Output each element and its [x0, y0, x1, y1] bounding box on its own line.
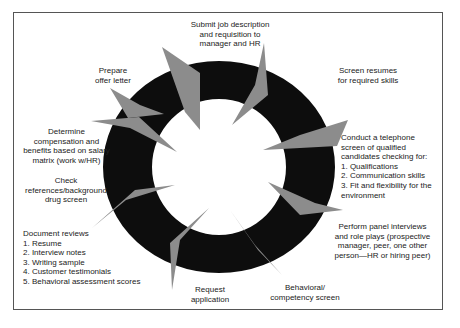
step-line: person—HR or hiring peer) [325, 251, 440, 261]
step-line: Check [16, 176, 116, 186]
step-line: references/background [16, 186, 116, 196]
review-item: 5. Behavioral assessment scores [23, 277, 158, 287]
step-screen-resumes: Screen resumes for required skills [318, 66, 418, 85]
step-determine-compensation: Determine compensation and benefits base… [14, 127, 119, 165]
review-item: 4. Customer testimonials [23, 267, 158, 277]
step-line: candidates checking for: [341, 152, 446, 162]
step-line: Screen resumes [318, 66, 418, 76]
step-line: benefits based on salary [14, 146, 119, 156]
step-check-references: Check references/background drug screen [16, 176, 116, 205]
review-item: 1. Resume [23, 239, 158, 249]
step-line: manager and HR [165, 39, 295, 49]
document-review-list: 1. Resume 2. Interview notes 3. Writing … [23, 239, 158, 287]
review-item: 3. Writing sample [23, 258, 158, 268]
step-line: Submit job description [165, 20, 295, 30]
step-prepare-offer-letter: Prepare offer letter [78, 66, 148, 85]
step-request-application: Request application [180, 285, 240, 304]
review-item: 2. Interview notes [23, 248, 158, 258]
step-line: Conduct a telephone [341, 133, 446, 143]
step-line: and role plays (prospective [325, 232, 440, 242]
step-line: application [180, 295, 240, 305]
step-line: matrix (work w/HR) [14, 156, 119, 166]
step-line: Prepare [78, 66, 148, 76]
criteria-item: 3. Fit and flexibility for the [341, 181, 446, 191]
step-behavioral-screen: Behavioral/ competency screen [260, 283, 350, 302]
telephone-screen-criteria: 1. Qualifications 2. Communication skill… [341, 162, 446, 200]
step-line: Request [180, 285, 240, 295]
step-line: Behavioral/ [260, 283, 350, 293]
step-line: screen of qualified [341, 143, 446, 153]
step-line: Document reviews [23, 229, 158, 239]
criteria-item: 2. Communication skills [341, 171, 446, 181]
step-line: drug screen [16, 195, 116, 205]
step-telephone-screen: Conduct a telephone screen of qualified … [341, 133, 446, 200]
step-line: and requisition to [165, 30, 295, 40]
step-panel-interviews: Perform panel interviews and role plays … [325, 222, 440, 260]
criteria-item: environment [341, 191, 446, 201]
step-line: offer letter [78, 76, 148, 86]
criteria-item: 1. Qualifications [341, 162, 446, 172]
step-line: for required skills [318, 76, 418, 86]
step-line: competency screen [260, 293, 350, 303]
step-line: Perform panel interviews [325, 222, 440, 232]
step-line: compensation and [14, 137, 119, 147]
step-line: manager, peer, one other [325, 241, 440, 251]
step-document-reviews: Document reviews 1. Resume 2. Interview … [23, 229, 158, 287]
step-submit-job-description: Submit job description and requisition t… [165, 20, 295, 49]
step-line: Determine [14, 127, 119, 137]
